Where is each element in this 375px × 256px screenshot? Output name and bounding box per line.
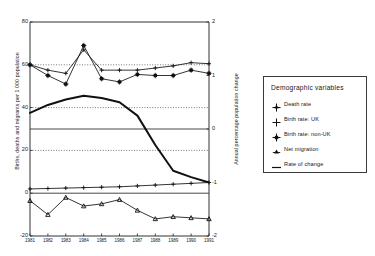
series-net-migration <box>28 195 211 220</box>
series-rate-of-change <box>30 96 209 183</box>
plus-marker-icon <box>271 99 282 110</box>
plus-marker-icon <box>271 114 282 125</box>
series-birth-rate-uk <box>28 48 211 76</box>
legend-item[interactable]: Birth rate: non-UK <box>271 129 366 140</box>
legend-item-label: Birth rate: non-UK <box>284 131 331 137</box>
legend-item-label: Death rate <box>284 101 311 107</box>
line-marker-icon <box>271 159 282 170</box>
legend-item-label: Rate of change <box>284 161 323 167</box>
legend-item[interactable]: Death rate <box>271 99 366 110</box>
legend-item-label: Net migration <box>284 146 319 152</box>
legend-item[interactable]: Rate of change <box>271 159 366 170</box>
chart-figure: Births, deaths and migrants per 1 000 po… <box>0 0 375 256</box>
legend-title: Demographic variables <box>271 84 344 91</box>
legend-item[interactable]: Birth rate: UK <box>271 114 366 125</box>
series-death-rate <box>28 180 211 191</box>
legend-item-label: Birth rate: UK <box>284 116 319 122</box>
star-marker-icon <box>271 129 282 140</box>
triangle-marker-icon <box>271 144 282 155</box>
legend-item[interactable]: Net migration <box>271 144 366 155</box>
legend-box: Demographic variables Death rateBirth ra… <box>263 76 367 173</box>
